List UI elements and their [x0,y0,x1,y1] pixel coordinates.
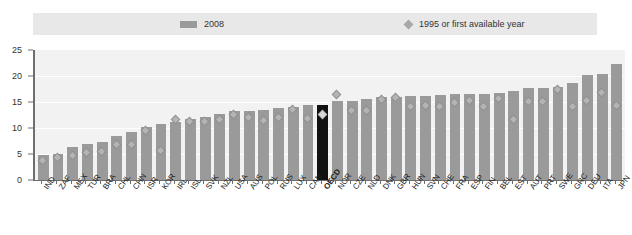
x-tick-mark [306,181,307,184]
bar-slot [168,50,183,180]
bar [450,94,461,180]
x-label-slot: CHE [431,181,446,235]
bar-slot [389,50,404,180]
x-label-slot: JPN [607,181,622,235]
bar-slot [36,50,51,180]
bar-slot [433,50,448,180]
chart-legend: 2008 1995 or first available year [33,13,597,35]
x-label-slot: KOR [152,181,167,235]
x-label-slot: RUS [269,181,284,235]
x-label-slot: GRC [563,181,578,235]
bar-slot [65,50,80,180]
x-label-slot: HUN [402,181,417,235]
bar [229,111,240,180]
y-tick-label: 20 [12,71,22,81]
bar-slot [507,50,522,180]
y-tick-label: 5 [17,149,22,159]
bar-slot [595,50,610,180]
x-label-slot: AUS [240,181,255,235]
x-label-slot: OECD [313,181,328,235]
bar-slot [198,50,213,180]
bar-slot [418,50,433,180]
bar-slot [242,50,257,180]
bar [567,83,578,180]
bar [185,119,196,180]
x-tick-mark [365,181,366,184]
bar [494,93,505,180]
x-tick-mark [203,181,204,184]
bar [508,91,519,180]
x-label-slot: ITA [593,181,608,235]
x-tick-mark [600,181,601,184]
x-label-slot: NZL [210,181,225,235]
x-label-slot: SWE [549,181,564,235]
x-label-slot: BRA [93,181,108,235]
x-label-slot: CHN [122,181,137,235]
x-label-slot: ESP [460,181,475,235]
x-tick-mark [71,181,72,184]
x-tick-mark [277,181,278,184]
x-label-slot: POL [255,181,270,235]
x-label-slot: AUT [519,181,534,235]
bar [376,97,387,180]
x-label-slot: NLD [357,181,372,235]
x-label-slot: LUX [284,181,299,235]
x-label-slot: PRT [534,181,549,235]
bar-slot [551,50,566,180]
x-label-slot: IND [34,181,49,235]
x-label-slot: CHL [108,181,123,235]
x-label-slot: USA [225,181,240,235]
x-tick-mark [527,181,528,184]
x-tick-mark [321,181,322,184]
bar-slot [521,50,536,180]
x-tick-mark [380,181,381,184]
bar-slot [124,50,139,180]
x-label-slot: CAN [299,181,314,235]
x-axis-labels: INDZAFMEXTURBRACHLCHNISRKORIRLISLSVKNZLU… [33,181,623,235]
x-tick-mark [159,181,160,184]
x-tick-mark [497,181,498,184]
bar-slot [359,50,374,180]
bar-slot [51,50,66,180]
bar-series [35,50,625,180]
legend-entry-2008: 2008 [180,20,224,29]
x-tick-mark [56,181,57,184]
x-tick-mark [512,181,513,184]
bar-slot [477,50,492,180]
x-label-slot: DEU [578,181,593,235]
x-label-slot: CZE [343,181,358,235]
bar-slot [580,50,595,180]
x-label-slot: MEX [63,181,78,235]
bar-slot [492,50,507,180]
x-label-slot: FIN [475,181,490,235]
bar-slot [154,50,169,180]
bar-slot [271,50,286,180]
x-tick-mark [571,181,572,184]
y-tick-label: 10 [12,123,22,133]
bar [200,117,211,180]
x-tick-mark [218,181,219,184]
x-tick-mark [556,181,557,184]
y-tick-label: 0 [17,175,22,185]
x-label-slot: EST [505,181,520,235]
bar [141,127,152,180]
bar [288,107,299,180]
x-tick-mark [424,181,425,184]
legend-label-2008: 2008 [204,20,224,29]
bar-slot [404,50,419,180]
y-axis: 0510152025 [0,44,33,186]
x-label-slot: TUR [78,181,93,235]
x-tick-mark [100,181,101,184]
data-point-marker [332,90,342,100]
bar-slot [462,50,477,180]
x-label-slot: ISR [137,181,152,235]
x-tick-mark [615,181,616,184]
x-label-slot: ISL [181,181,196,235]
legend-entry-1995: 1995 or first available year [405,20,525,29]
x-label-slot: NOR [328,181,343,235]
x-tick-mark [468,181,469,184]
x-tick-mark [174,181,175,184]
bar-slot [315,50,330,180]
bar-slot [139,50,154,180]
